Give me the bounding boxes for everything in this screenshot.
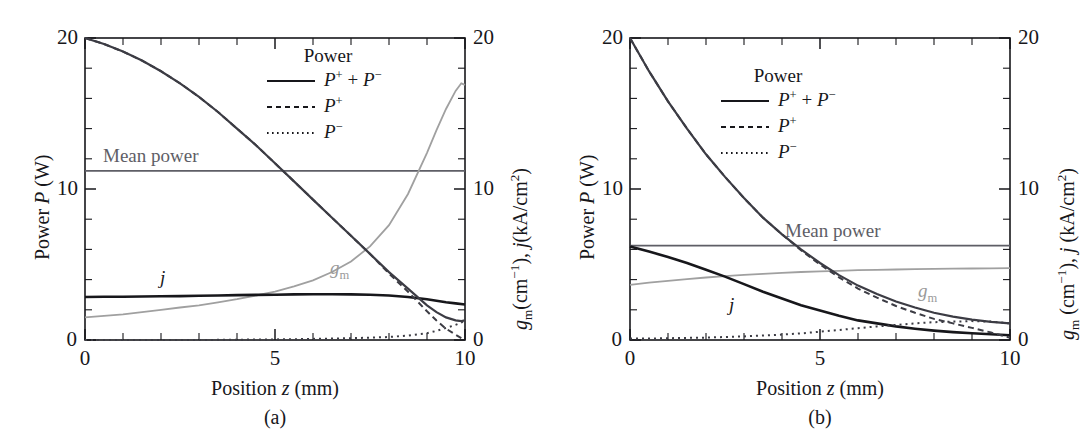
legend-swatch-dotted-b: [719, 150, 771, 156]
gm-curve-a: [85, 83, 465, 317]
legend-label-pminus-a: P−: [324, 121, 343, 141]
axis-frame-b: [630, 38, 1010, 340]
y-axis-title-right-a: gm(cm−1), j(kA/cm2): [508, 168, 534, 330]
y-left-pre-b: Power: [576, 204, 598, 260]
leg0-s2-a: −: [375, 68, 382, 82]
y-right-exp-b: −1: [1054, 270, 1069, 284]
ytick-right-10-a: 10: [473, 178, 494, 199]
legend-label-total-b: P+ + P−: [778, 89, 836, 109]
y-right-j-b: j: [1056, 247, 1078, 253]
gm-sub-b: m: [928, 291, 938, 305]
y-right-tail-b: (kA/cm: [1056, 181, 1078, 247]
ytick-left-10-a: 10: [57, 178, 77, 199]
panel-b: 20 10 0 20 10 0 0 5 10 Power P (W) gm (c…: [543, 0, 1085, 436]
y-right-gsub-a: m: [520, 310, 535, 320]
legend-label-pplus-b: P+: [778, 115, 797, 135]
leg2-s1-b: −: [790, 140, 797, 154]
leg0-p1-b: P: [778, 89, 790, 110]
leg0-plus-a: +: [343, 69, 363, 90]
panel-a: 20 10 0 20 10 0 0 5 10 Power P (W) gm(cm…: [0, 0, 542, 436]
major-ticks-b: [630, 38, 1010, 340]
y-right-mid2-a: ),: [509, 248, 531, 265]
leg0-p2-a: P: [363, 69, 375, 90]
gm-g-b: g: [918, 280, 928, 301]
legend-title-a: Power: [304, 46, 353, 65]
y-right-g-a: g: [509, 320, 531, 330]
ytick-left-10-b: 10: [602, 178, 622, 199]
x-axis-title-b: Position z (mm): [756, 378, 884, 398]
total-power-curve-b: [630, 38, 1010, 323]
minor-ticks-b: [630, 38, 1010, 340]
leg0-s2-b: −: [829, 88, 836, 102]
j-curve-a: [85, 294, 465, 304]
legend-title-b: Power: [754, 66, 803, 85]
y-right-exp2-a: 2: [507, 175, 522, 182]
leg0-p1-a: P: [324, 69, 336, 90]
y-right-exp2-b: 2: [1054, 175, 1069, 182]
xtick-10-a: 10: [455, 348, 476, 369]
leg2-p1-a: P: [324, 121, 336, 142]
y-right-j-a: j: [509, 242, 531, 248]
y-right-gsub-b: m: [1067, 320, 1082, 330]
leg1-s1-b: +: [790, 114, 797, 128]
leg1-p1-b: P: [778, 115, 790, 136]
y-right-close-b: ): [1056, 168, 1078, 175]
x-pre-b: Position: [756, 377, 827, 399]
panel-letter-b: (b): [808, 407, 831, 427]
figure-container: 20 10 0 20 10 0 0 5 10 Power P (W) gm(cm…: [0, 0, 1085, 436]
y-right-close-a: ): [509, 168, 531, 175]
ytick-left-20-a: 20: [57, 27, 77, 48]
ytick-right-20-b: 20: [1018, 27, 1039, 48]
ytick-right-10-b: 10: [1018, 178, 1039, 199]
legend-swatch-solid-a: [265, 78, 317, 84]
y-axis-title-left-a: Power P (W): [32, 154, 52, 260]
leg0-s1-a: +: [336, 68, 343, 82]
leg0-p2-b: P: [817, 89, 829, 110]
y-right-g-b: g: [1056, 330, 1078, 340]
x-pre-a: Position: [211, 377, 282, 399]
x-post-b: (mm): [834, 377, 883, 399]
mean-power-label-b: Mean power: [785, 221, 881, 240]
legend-label-pminus-b: P−: [778, 141, 797, 161]
legend-swatch-dashed-a: [265, 104, 317, 110]
p-plus-curve-b: [630, 38, 1010, 338]
legend-label-pplus-a: P+: [324, 95, 343, 115]
ytick-left-0-b: 0: [602, 329, 622, 350]
j-label-b: j: [729, 295, 734, 314]
y-left-var-a: P: [31, 192, 53, 204]
leg0-plus-b: +: [797, 89, 817, 110]
y-axis-title-left-b: Power P (W): [577, 154, 597, 260]
xtick-0-b: 0: [625, 348, 636, 369]
y-right-mid-a: (cm: [509, 279, 531, 310]
y-right-exp-a: −1: [507, 265, 522, 279]
ytick-left-20-b: 20: [602, 27, 622, 48]
gm-g-a: g: [330, 257, 340, 278]
leg1-p1-a: P: [324, 95, 336, 116]
panel-letter-a: (a): [264, 407, 286, 427]
legend-swatch-dashed-b: [719, 124, 771, 130]
xtick-0-a: 0: [80, 348, 91, 369]
x-axis-title-a: Position z (mm): [211, 378, 339, 398]
gm-sub-a: m: [340, 268, 350, 282]
y-left-pre-a: Power: [31, 204, 53, 260]
legend-label-total-a: P+ + P−: [324, 69, 382, 89]
leg0-s1-b: +: [790, 88, 797, 102]
panel-a-plot: [0, 0, 542, 436]
leg2-s1-a: −: [336, 120, 343, 134]
panel-b-plot: [543, 0, 1085, 436]
j-curve-b: [630, 246, 1010, 335]
y-right-mid-b: (cm: [1056, 284, 1078, 320]
leg1-s1-a: +: [336, 94, 343, 108]
gm-label-a: gm: [330, 258, 349, 281]
legend-swatch-dotted-a: [265, 130, 317, 136]
j-label-a: j: [160, 268, 165, 287]
legend-swatch-solid-b: [719, 98, 771, 104]
gm-curve-b: [630, 268, 1010, 285]
y-right-tail-a: (kA/cm: [509, 181, 531, 242]
y-left-post-a: (W): [31, 154, 53, 191]
gm-label-b: gm: [918, 281, 937, 304]
y-right-mid2-b: ),: [1056, 253, 1078, 270]
y-left-post-b: (W): [576, 154, 598, 191]
xtick-10-b: 10: [1000, 348, 1021, 369]
xtick-5-b: 5: [815, 348, 826, 369]
